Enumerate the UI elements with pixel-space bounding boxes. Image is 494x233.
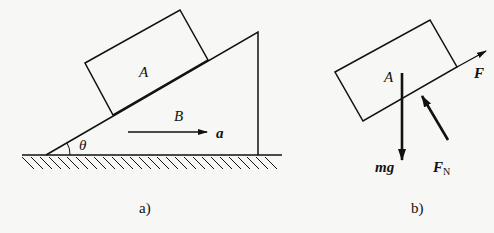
figure-b: A F mg FN b) bbox=[335, 20, 486, 217]
caption-b: b) bbox=[411, 200, 424, 217]
block-A bbox=[85, 10, 208, 115]
figure-a: A B θ a a) bbox=[22, 10, 282, 217]
gravity-label: mg bbox=[375, 159, 395, 175]
normal-force-arrow bbox=[422, 96, 448, 140]
wedge-B bbox=[46, 32, 258, 155]
diagram-svg: A B θ a a) A F mg FN b) bbox=[0, 0, 494, 233]
physics-diagram: A B θ a a) A F mg FN b) bbox=[0, 0, 494, 233]
normal-force-label: FN bbox=[432, 159, 450, 177]
block-A-label: A bbox=[138, 64, 149, 80]
block-A-label-b: A bbox=[383, 69, 394, 85]
wedge-B-label: B bbox=[174, 108, 183, 124]
force-F-label: F bbox=[473, 65, 484, 81]
block-A-free-body bbox=[335, 20, 457, 121]
angle-arc bbox=[67, 143, 70, 155]
ground-hatching bbox=[22, 157, 277, 169]
caption-a: a) bbox=[139, 200, 151, 217]
angle-theta-label: θ bbox=[79, 137, 87, 153]
normal-force-sub: N bbox=[443, 166, 450, 177]
normal-force-main: F bbox=[432, 159, 443, 175]
acceleration-label: a bbox=[216, 125, 224, 141]
